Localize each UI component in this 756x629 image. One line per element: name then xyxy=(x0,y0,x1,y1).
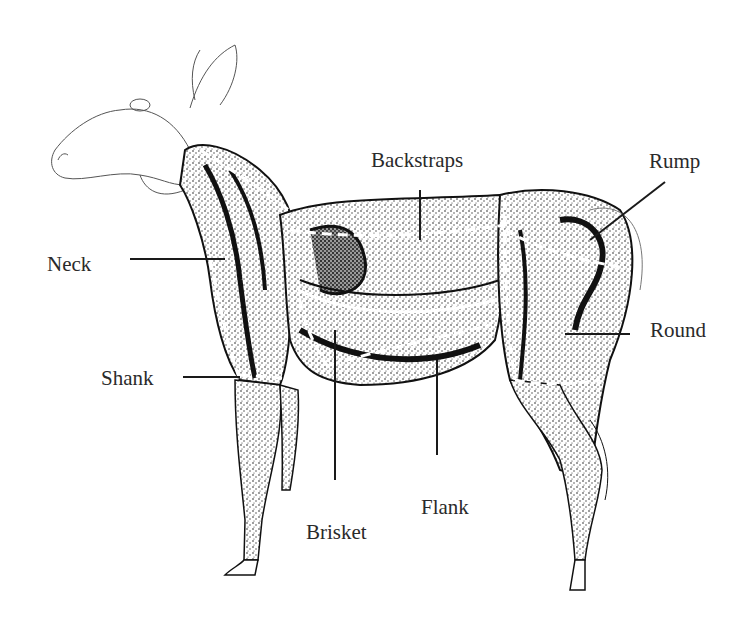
label-shank: Shank xyxy=(101,368,154,389)
label-neck: Neck xyxy=(47,254,91,275)
label-backstraps: Backstraps xyxy=(371,150,463,171)
label-flank: Flank xyxy=(421,497,469,518)
ribs-backstraps-muscles xyxy=(280,195,505,385)
label-brisket: Brisket xyxy=(306,522,367,543)
label-round: Round xyxy=(650,320,706,341)
label-rump: Rump xyxy=(649,151,700,172)
neck-shoulder-muscles xyxy=(180,145,296,385)
front-legs xyxy=(225,380,298,575)
deer-diagram xyxy=(0,0,756,629)
